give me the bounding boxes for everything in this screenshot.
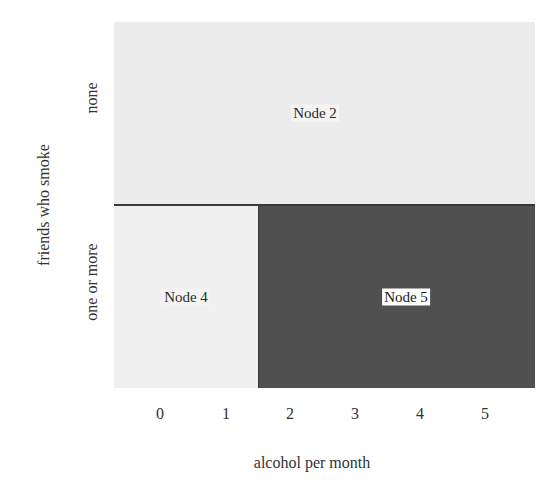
horizontal-split-line xyxy=(114,204,535,206)
x-tick-5: 5 xyxy=(481,405,489,423)
node-4-label: Node 4 xyxy=(162,289,210,306)
x-tick-2: 2 xyxy=(286,405,294,423)
plot-area: Node 2 Node 4 Node 5 xyxy=(114,22,535,388)
x-axis-label: alcohol per month xyxy=(254,454,370,472)
x-tick-3: 3 xyxy=(351,405,359,423)
y-tick-one-or-more: one or more xyxy=(83,243,101,320)
y-tick-none: none xyxy=(83,82,101,113)
x-tick-4: 4 xyxy=(416,405,424,423)
vertical-split-line xyxy=(258,205,259,388)
x-tick-0: 0 xyxy=(156,405,164,423)
y-axis-label: friends who smoke xyxy=(35,144,53,266)
node-5-label: Node 5 xyxy=(382,289,430,306)
node-2-label: Node 2 xyxy=(291,105,339,122)
x-tick-1: 1 xyxy=(222,405,230,423)
